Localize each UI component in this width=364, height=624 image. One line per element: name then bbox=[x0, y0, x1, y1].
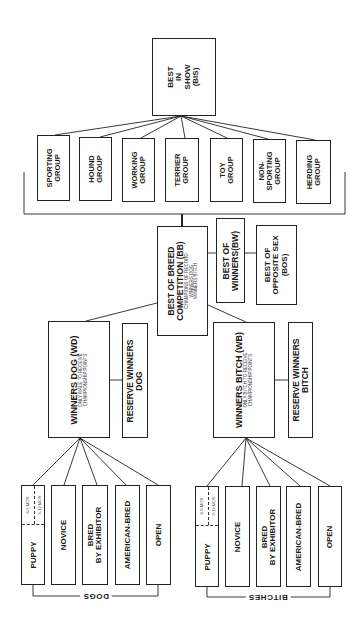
group-label: GROUP bbox=[182, 154, 190, 187]
best-of-winners-box: BEST OF WINNERS(BW) bbox=[216, 218, 245, 303]
rwb-title: BITCH bbox=[301, 339, 310, 422]
bis-line-4: (BIS) bbox=[192, 65, 200, 90]
dog-class-open: OPEN bbox=[146, 485, 171, 585]
best-opposite-sex-box: BEST OF OPPOSITE SEX (BOS) bbox=[256, 225, 297, 305]
winners-dog-box: WINNERS DOG (WD) ONLY MALE TO RECEIVE CH… bbox=[48, 321, 110, 438]
group-toy: TOY GROUP bbox=[210, 138, 243, 202]
winners-bitch-box: WINNERS BITCH (WB) ONLY BITCH TO RECEIVE… bbox=[213, 322, 275, 438]
best-in-show-box: BEST IN SHOW (BIS) bbox=[152, 38, 216, 116]
dogs-bracket-label: DOGS bbox=[80, 592, 112, 601]
group-label: GROUP bbox=[54, 148, 62, 187]
group-label: GROUP bbox=[314, 155, 322, 190]
bitch-class-open: OPEN bbox=[318, 486, 342, 587]
bb-sub: WINNERS BITCH bbox=[194, 241, 199, 320]
bos-title: (BOS) bbox=[281, 235, 289, 294]
dog-class-bred-by-exhibitor: BRED BY EXHIBITOR bbox=[82, 485, 108, 585]
bw-title: WINNERS(BW) bbox=[231, 231, 240, 291]
bitch-class-puppy: 6-9 MOS 9-12 MOS PUPPY bbox=[195, 486, 219, 587]
dog-class-novice: NOVICE bbox=[51, 485, 76, 585]
group-non-sporting: NON- SPORTING GROUP bbox=[253, 139, 286, 203]
group-hound: HOUND GROUP bbox=[79, 137, 112, 201]
group-terrier: TERRIER GROUP bbox=[165, 138, 199, 202]
wb-sub: CHAMPIONSHIP POINTS bbox=[249, 332, 254, 428]
group-label: GROUP bbox=[139, 151, 147, 188]
class-label: PUPPY bbox=[204, 543, 212, 570]
class-label: AMERICAN-BRED bbox=[123, 501, 131, 569]
puppy-age-6-9: 6-9 MOS bbox=[26, 497, 30, 514]
wd-sub: CHAMPIONSHIP POINTS bbox=[84, 335, 89, 424]
best-of-breed-box: BEST OF BREED COMPETITION (BB) CHAMPIONS… bbox=[157, 226, 208, 336]
class-label: NOVICE bbox=[233, 521, 241, 552]
puppy-age-9-12: 9-12 MOS bbox=[38, 495, 42, 514]
puppy-age-9-12: 9-12 MOS bbox=[212, 496, 216, 515]
dog-class-puppy: 6-9 MOS 9-12 MOS PUPPY bbox=[21, 485, 45, 585]
class-label: NOVICE bbox=[59, 520, 67, 551]
bb-title: COMPETITION (BB) bbox=[175, 241, 184, 320]
bitch-class-novice: NOVICE bbox=[225, 486, 250, 587]
bitch-class-bred-by-exhibitor: BRED BY EXHIBITOR bbox=[256, 486, 281, 587]
class-label: OPEN bbox=[326, 525, 334, 548]
reserve-winners-bitch-box: RESERVE WINNERS BITCH bbox=[288, 322, 313, 438]
group-label: GROUP bbox=[96, 155, 104, 183]
class-label: OPEN bbox=[154, 524, 162, 547]
puppy-age-6-9: 6-9 MOS bbox=[200, 498, 204, 515]
group-sporting: SPORTING GROUP bbox=[37, 135, 70, 201]
group-label: GROUP bbox=[273, 151, 281, 190]
group-label: GROUP bbox=[227, 156, 235, 184]
class-label: BY EXHIBITOR bbox=[269, 508, 277, 565]
dog-class-american-bred: AMERICAN-BRED bbox=[115, 485, 140, 585]
group-working: WORKING GROUP bbox=[122, 138, 155, 202]
class-label: PUPPY bbox=[30, 541, 38, 568]
rwd-title: DOG bbox=[135, 339, 144, 422]
reserve-winners-dog-box: RESERVE WINNERS DOG bbox=[122, 323, 148, 438]
bitches-bracket-label: BITCHES bbox=[245, 593, 290, 602]
class-label: AMERICAN-BRED bbox=[294, 502, 302, 570]
class-label: BY EXHIBITOR bbox=[95, 507, 103, 564]
group-herding: HERDING GROUP bbox=[296, 140, 331, 204]
bitch-class-american-bred: AMERICAN-BRED bbox=[286, 486, 311, 587]
